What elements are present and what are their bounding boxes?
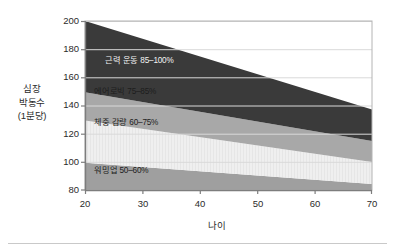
x-axis-title-text: 나이 <box>208 220 226 231</box>
y-tick-marks <box>81 22 85 191</box>
chart-canvas: 200 180 160 140 120 100 80 20 30 40 50 6… <box>0 0 395 252</box>
x-tick-label: 40 <box>187 198 213 209</box>
y-tick-label: 160 <box>53 71 79 82</box>
x-tick-label: 30 <box>130 198 156 209</box>
y-tick-label: 80 <box>53 184 79 195</box>
band-label-warmup: 워밍업 50–60% <box>94 163 148 175</box>
band-label-aerobic: 에어로빅 75–85% <box>94 84 156 96</box>
x-tick-label: 60 <box>302 198 328 209</box>
bottom-divider <box>8 243 387 244</box>
y-tick-label: 120 <box>53 128 79 139</box>
band-label-strength: 근력 운동 85–100% <box>105 53 174 65</box>
x-tick-label: 50 <box>245 198 271 209</box>
y-axis-title-line-3: (1분당) <box>4 109 60 123</box>
x-tick-label: 20 <box>72 198 98 209</box>
y-tick-label: 100 <box>53 156 79 167</box>
y-axis-title: 심장 박동수 (1분당) <box>4 82 60 123</box>
y-axis-title-line-1: 심장 <box>4 82 60 96</box>
band-label-weight-loss: 체중 감량 60–75% <box>94 115 158 127</box>
x-axis-title: 나이 <box>0 218 395 232</box>
y-tick-label: 200 <box>53 15 79 26</box>
x-tick-label: 70 <box>359 198 385 209</box>
y-axis-title-line-2: 박동수 <box>4 96 60 110</box>
heart-rate-zone-chart <box>0 0 395 252</box>
y-tick-label: 180 <box>53 43 79 54</box>
